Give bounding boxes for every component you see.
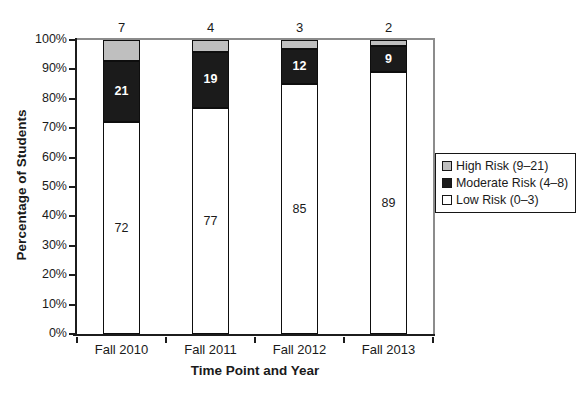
x-category-label: Fall 2011: [167, 342, 255, 357]
bar-top-value-label: 4: [186, 21, 235, 35]
y-axis-tick: [69, 245, 75, 247]
bar-segment-moderate: 12: [281, 49, 318, 84]
bar-value-label: 19: [204, 73, 218, 86]
legend: High Risk (9–21)Moderate Risk (4–8)Low R…: [435, 153, 576, 213]
legend-label: High Risk (9–21): [456, 159, 548, 173]
legend-label: Low Risk (0–3): [456, 193, 539, 207]
y-axis-tick-label: 60%: [21, 150, 67, 165]
bar-top-value-label: 3: [275, 21, 324, 35]
y-axis-tick-label: 20%: [21, 267, 67, 282]
y-axis-tick-label: 10%: [21, 297, 67, 312]
y-axis-tick: [69, 98, 75, 100]
y-axis-tick: [69, 215, 75, 217]
bar-value-label: 21: [115, 85, 129, 98]
bar-segment-high: [103, 40, 140, 61]
bar-value-label: 12: [293, 60, 307, 73]
x-category-label: Fall 2013: [345, 342, 433, 357]
y-axis-line: [75, 38, 77, 336]
legend-item: High Risk (9–21): [442, 159, 568, 173]
x-category-label: Fall 2010: [78, 342, 166, 357]
bar-segment-moderate: 9: [370, 46, 407, 72]
bar-top-value-label: 2: [364, 21, 413, 35]
y-axis-tick: [69, 157, 75, 159]
legend-swatch-icon: [442, 195, 452, 205]
y-axis-tick: [69, 186, 75, 188]
stacked-bar: 72217: [103, 40, 140, 334]
legend-item: Moderate Risk (4–8): [442, 176, 568, 190]
y-axis-tick-label: 100%: [21, 32, 67, 47]
y-axis-tick-label: 50%: [21, 179, 67, 194]
bar-value-label: 9: [385, 53, 392, 66]
bar-value-label: 85: [293, 203, 307, 216]
y-axis-tick: [69, 274, 75, 276]
bar-segment-moderate: 21: [103, 61, 140, 123]
stacked-bar: 85123: [281, 40, 318, 334]
bar-segment-low: 77: [192, 108, 229, 334]
bar-segment-low: 89: [370, 72, 407, 334]
y-axis-tick-label: 70%: [21, 120, 67, 135]
legend-swatch-icon: [442, 161, 452, 171]
x-category-label: Fall 2012: [256, 342, 344, 357]
legend-swatch-icon: [442, 178, 452, 188]
y-axis-tick-label: 90%: [21, 61, 67, 76]
stacked-bar: 77194: [192, 40, 229, 334]
bar-segment-low: 72: [103, 122, 140, 334]
bar-value-label: 77: [204, 215, 218, 228]
bar-value-label: 89: [382, 197, 396, 210]
stacked-bar-chart: Percentage of Students 0%10%20%30%40%50%…: [0, 0, 578, 396]
plot-area: 0%10%20%30%40%50%60%70%80%90%100%72217Fa…: [77, 38, 435, 334]
bar-value-label: 72: [115, 222, 129, 235]
bar-segment-low: 85: [281, 84, 318, 334]
x-axis-title: Time Point and Year: [77, 363, 433, 378]
stacked-bar: 8992: [370, 40, 407, 334]
y-axis-tick: [69, 127, 75, 129]
y-axis-tick-label: 80%: [21, 91, 67, 106]
bar-segment-high: [370, 40, 407, 46]
y-axis-tick-label: 0%: [21, 326, 67, 341]
legend-label: Moderate Risk (4–8): [456, 176, 568, 190]
y-axis-tick-label: 40%: [21, 208, 67, 223]
legend-item: Low Risk (0–3): [442, 193, 568, 207]
y-axis-tick: [69, 333, 75, 335]
y-axis-tick: [69, 39, 75, 41]
x-axis-line: [73, 334, 435, 336]
y-axis-tick: [69, 68, 75, 70]
bar-segment-high: [192, 40, 229, 52]
bar-segment-moderate: 19: [192, 52, 229, 108]
y-axis-tick-label: 30%: [21, 238, 67, 253]
bar-top-value-label: 7: [97, 21, 146, 35]
y-axis-tick: [69, 304, 75, 306]
bar-segment-high: [281, 40, 318, 49]
